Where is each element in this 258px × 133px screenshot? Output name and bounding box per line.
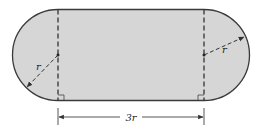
stadium-diagram: r r 3r: [0, 0, 258, 133]
stadium-shape: [13, 10, 250, 101]
length-label: 3r: [125, 112, 137, 123]
